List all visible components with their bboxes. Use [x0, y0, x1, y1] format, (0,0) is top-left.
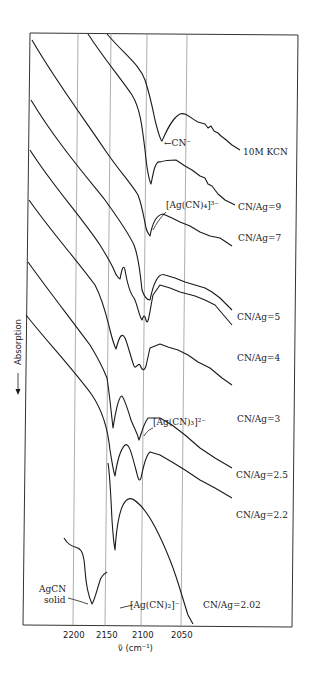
curve-10m-kcn — [107, 34, 240, 150]
annotation-ag-cn-4: [Ag(CN)₄]³⁻ — [166, 200, 219, 210]
label-cn-ag-4: CN/Ag=4 — [237, 353, 281, 363]
annotation-cn: ←CN⁻ — [164, 138, 191, 148]
tick-2050: 2050 — [171, 630, 193, 640]
spectra-curves — [26, 34, 240, 624]
annotation-ag-cn-3: [Ag(CN)₃]²⁻ — [153, 417, 206, 427]
label-cn-ag-2.2: CN/Ag=2.2 — [236, 510, 288, 520]
tick-2150: 2150 — [96, 630, 118, 640]
curve-cn-ag-2.5 — [28, 262, 232, 468]
curve-agcn-solid — [64, 538, 107, 604]
arrow-agcn-solid — [68, 598, 88, 604]
arrow-ag-cn-3 — [144, 428, 153, 436]
y-axis-title: Absorption — [13, 319, 23, 365]
label-10m-kcn: 10M KCN — [243, 147, 288, 157]
label-cn-ag-2.5: CN/Ag=2.5 — [236, 470, 288, 480]
annotation-ag-cn-2: [Ag(CN)₂]⁻ — [130, 600, 180, 610]
annotation-agcn-line1: AgCN — [38, 584, 66, 594]
ir-spectra-chart: 10M KCN CN/Ag=9 CN/Ag=7 CN/Ag=5 CN/Ag=4 … — [0, 0, 311, 682]
tick-2200: 2200 — [63, 630, 85, 640]
label-cn-ag-5: CN/Ag=5 — [237, 312, 281, 322]
label-cn-ag-3: CN/Ag=3 — [237, 414, 281, 424]
curve-labels: 10M KCN CN/Ag=9 CN/Ag=7 CN/Ag=5 CN/Ag=4 … — [203, 147, 288, 610]
annotation-agcn-line2: solid — [44, 595, 66, 605]
curve-cn-ag-7 — [32, 40, 232, 246]
label-cn-ag-2.02: CN/Ag=2.02 — [203, 600, 261, 610]
y-axis-label: Absorption — [13, 319, 23, 365]
label-cn-ag-9: CN/Ag=9 — [238, 202, 282, 212]
curve-cn-ag-2.2 — [26, 315, 232, 498]
gridlines — [73, 33, 187, 626]
label-cn-ag-7: CN/Ag=7 — [238, 233, 282, 243]
x-axis-ticks: 2200 2150 2100 2050 — [63, 630, 193, 640]
tick-2100: 2100 — [132, 630, 154, 640]
x-axis-title: ν̃ (cm⁻¹) — [118, 643, 153, 653]
down-arrow-icon — [16, 373, 21, 395]
